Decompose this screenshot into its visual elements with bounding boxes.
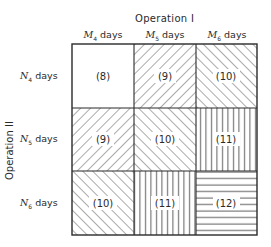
cell-label: (10) — [155, 134, 176, 145]
cell-label: (9) — [158, 71, 172, 82]
cell-label: (12) — [216, 198, 237, 209]
cell-label: (11) — [155, 198, 176, 209]
outcome-grid: (8) (9) (10) (9) (10) (11) (10) (11) (12… — [0, 0, 271, 247]
cell-label: (8) — [96, 71, 110, 82]
cell-label: (11) — [216, 134, 237, 145]
cell-label: (10) — [216, 71, 237, 82]
cell-label: (10) — [93, 198, 114, 209]
cell-label: (9) — [96, 134, 110, 145]
